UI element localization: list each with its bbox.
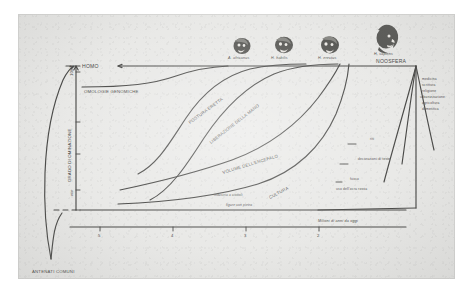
figure-page: 100% min GRADO DI OMINAZIONE Milioni di … [0,0,473,292]
scan-vignette [18,14,455,279]
scanned-page: 100% min GRADO DI OMINAZIONE Milioni di … [18,14,455,279]
